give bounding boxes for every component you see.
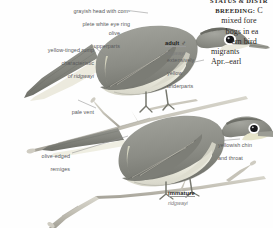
book-line-breeding: BREEDING:C <box>205 6 273 16</box>
caption-adult-male: adult♂ ridgwayi <box>165 31 186 56</box>
annotation-pale-vent: pale vent <box>22 103 94 122</box>
annotation-yellowish-chin: yellowish chin and throat <box>218 136 273 168</box>
male-symbol-icon: ♂ <box>181 39 186 46</box>
annotation-yellow-rump-line1: yellow-tinged rump <box>0 47 94 53</box>
annotation-olive-upperparts-line1: olive <box>30 30 120 36</box>
field-guide-page: grayish head with com- plete white eye r… <box>0 0 273 228</box>
annotation-yellow-rump-line2: characteristic <box>0 60 94 66</box>
book-line-3: mixed fore <box>205 16 273 26</box>
facing-page-text-column: STATUS & DISTR BREEDING:C mixed fore bog… <box>205 0 273 67</box>
book-line-6: migrants <box>205 47 273 57</box>
annotation-grayish-head-line1: grayish head with com- <box>20 8 130 14</box>
annotation-remiges-line1: olive-edged <box>0 153 70 159</box>
annotation-olive-edged-remiges: olive-edged remiges <box>0 147 70 179</box>
caption-immature-name: immature <box>168 190 195 197</box>
caption-immature-subspecies: ridgwayi <box>168 200 195 206</box>
leader-grayish-head <box>128 11 148 14</box>
caption-adult-name: adult <box>165 40 179 46</box>
annotation-yellow-rump: yellow-tinged rump characteristic of rid… <box>0 41 94 86</box>
caption-adult-name-group: adult♂ <box>165 39 186 47</box>
annotation-chin-line1: yellowish chin <box>218 142 273 148</box>
book-line-4: bogs in ea <box>205 27 273 37</box>
annotation-underparts-line3: underparts <box>167 83 227 89</box>
book-line-5: ern bird <box>205 37 273 47</box>
annotation-pale-vent-line1: pale vent <box>22 109 94 115</box>
annotation-underparts-line2: yellow <box>167 70 227 76</box>
book-breeding-rest: C <box>257 6 262 15</box>
annotation-remiges-line2: remiges <box>0 166 70 172</box>
annotation-chin-line2: and throat <box>218 155 273 161</box>
annotation-yellow-rump-line3: of ridgwayi <box>0 73 94 79</box>
caption-adult-subspecies: ridgwayi <box>165 50 186 56</box>
book-breeding-label: BREEDING: <box>215 7 255 14</box>
caption-immature: immature ridgwayi <box>168 181 195 206</box>
book-line-7: Apr.–earl <box>205 57 273 67</box>
